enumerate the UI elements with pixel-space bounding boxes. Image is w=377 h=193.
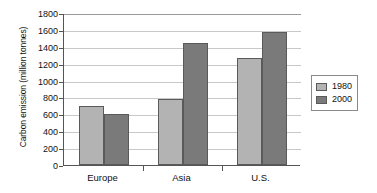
y-tick-label: 600 <box>18 111 58 120</box>
y-tick-label: 1200 <box>18 60 58 69</box>
y-tick-mark <box>59 132 63 133</box>
x-category-label-asia: Asia <box>172 172 190 183</box>
bar-europe-2000 <box>104 114 129 166</box>
bar-asia-2000 <box>183 43 208 165</box>
legend-item-2000: 2000 <box>316 93 352 106</box>
y-tick-mark <box>59 14 63 15</box>
y-tick-mark <box>59 31 63 32</box>
y-tick-mark <box>59 65 63 66</box>
x-category-label-europe: Europe <box>87 172 118 183</box>
x-tick-mark <box>222 166 223 171</box>
y-tick-label: 400 <box>18 128 58 137</box>
y-tick-label: 800 <box>18 94 58 103</box>
y-tick-mark <box>59 115 63 116</box>
x-category-label-us: U.S. <box>251 172 269 183</box>
plot-area <box>63 14 300 166</box>
legend-item-1980: 1980 <box>316 80 352 93</box>
bar-europe-1980 <box>79 106 104 165</box>
y-axis-tick-labels: 180016001400120010008006004002000 <box>18 0 58 193</box>
legend-swatch-icon <box>316 83 327 91</box>
y-tick-label: 200 <box>18 145 58 154</box>
x-tick-mark <box>143 166 144 171</box>
legend-label: 2000 <box>332 95 352 104</box>
y-tick-label: 0 <box>18 162 58 171</box>
y-tick-mark <box>59 166 63 167</box>
y-tick-mark <box>59 149 63 150</box>
chart-legend: 19802000 <box>311 75 358 111</box>
y-tick-mark <box>59 82 63 83</box>
y-tick-label: 1600 <box>18 26 58 35</box>
bar-asia-1980 <box>158 99 183 165</box>
legend-swatch-icon <box>316 96 327 104</box>
y-tick-label: 1400 <box>18 43 58 52</box>
y-tick-label: 1000 <box>18 77 58 86</box>
legend-label: 1980 <box>332 82 352 91</box>
y-tick-label: 1800 <box>18 10 58 19</box>
plot-top-border <box>64 14 301 15</box>
bar-chart: Carbon emission (million tonnes) 1800160… <box>0 0 377 193</box>
bar-us-2000 <box>262 32 287 165</box>
y-tick-mark <box>59 98 63 99</box>
bar-us-1980 <box>237 58 262 165</box>
y-tick-mark <box>59 48 63 49</box>
